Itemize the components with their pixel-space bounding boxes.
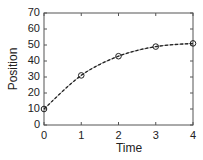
y-axis-label: Position bbox=[6, 44, 20, 94]
y-tick-label: 70 bbox=[18, 7, 40, 18]
x-axis-label: Time bbox=[109, 141, 149, 155]
position-time-chart: 010203040506070 01234 Time Position bbox=[0, 0, 203, 160]
x-tick-label: 0 bbox=[37, 130, 51, 141]
y-tick-label: 60 bbox=[18, 23, 40, 34]
x-tick-label: 1 bbox=[74, 130, 88, 141]
y-tick-label: 20 bbox=[18, 87, 40, 98]
y-tick-label: 50 bbox=[18, 39, 40, 50]
y-tick-label: 40 bbox=[18, 55, 40, 66]
y-tick-label: 0 bbox=[18, 119, 40, 130]
y-tick-label: 10 bbox=[18, 103, 40, 114]
x-tick-label: 2 bbox=[112, 130, 126, 141]
y-tick-label: 30 bbox=[18, 71, 40, 82]
plot-frame bbox=[44, 13, 193, 125]
x-tick-label: 3 bbox=[149, 130, 163, 141]
x-tick-label: 4 bbox=[186, 130, 200, 141]
